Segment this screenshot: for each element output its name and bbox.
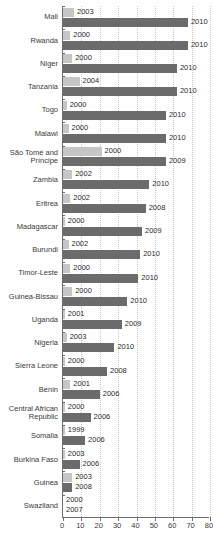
bar-track-light: 2003 xyxy=(63,333,213,342)
bar-track-dark: 2006 xyxy=(63,413,213,422)
category-label: Timor-Leste xyxy=(0,269,58,278)
bar-earlier-year[interactable] xyxy=(63,147,102,156)
bar-value-label: 2010 xyxy=(140,249,160,259)
x-tick-label-60: 60 xyxy=(168,521,176,530)
bar-later-year[interactable] xyxy=(63,134,166,143)
chart-row: Central African Republic20002006 xyxy=(0,402,213,425)
chart-row: Burkina Faso20032006 xyxy=(0,448,213,471)
bar-track-dark: 2010 xyxy=(63,274,213,283)
bar-later-year[interactable] xyxy=(63,250,140,259)
chart-row: Timor-Leste20002010 xyxy=(0,262,213,285)
bar-later-year[interactable] xyxy=(63,41,188,50)
bar-track-dark: 2008 xyxy=(63,367,213,376)
bar-earlier-year[interactable] xyxy=(63,287,72,296)
bar-value-label: 2000 xyxy=(65,216,85,226)
category-label: Central African Republic xyxy=(0,405,58,422)
bar-later-year[interactable] xyxy=(63,460,80,469)
bar-later-year[interactable] xyxy=(63,18,188,27)
bar-value-label: 2002 xyxy=(69,239,89,249)
bar-value-label: 2007 xyxy=(63,505,83,515)
bar-earlier-year[interactable] xyxy=(63,194,70,203)
bar-value-label: 2004 xyxy=(80,76,100,86)
chart-row: Madagascar20002009 xyxy=(0,215,213,238)
chart-row: São Tomé and Príncipe20002009 xyxy=(0,146,213,169)
bar-track-light: 2000 xyxy=(63,31,213,40)
bar-later-year[interactable] xyxy=(63,367,107,376)
bar-value-label: 2001 xyxy=(65,309,85,319)
category-label: Rwanda xyxy=(0,37,58,46)
bar-value-label: 2010 xyxy=(188,17,208,27)
category-label: Swaziland xyxy=(0,502,58,511)
bar-track-dark: 2009 xyxy=(63,227,213,236)
chart-row: Nigeria20032010 xyxy=(0,332,213,355)
bar-track-light: 2001 xyxy=(63,310,213,319)
chart-row: Burundi20022010 xyxy=(0,239,213,262)
bar-value-label: 2000 xyxy=(102,146,122,156)
chart-row: Niger20002010 xyxy=(0,53,213,76)
bar-value-label: 2010 xyxy=(188,40,208,50)
bar-value-label: 2010 xyxy=(177,63,197,73)
bar-value-label: 2010 xyxy=(114,342,134,352)
bar-later-year[interactable] xyxy=(63,64,177,73)
bar-later-year[interactable] xyxy=(63,111,166,120)
bar-track-dark: 2009 xyxy=(63,320,213,329)
bar-track-light: 2000 xyxy=(63,287,213,296)
bar-value-label: 2003 xyxy=(67,332,87,342)
bar-later-year[interactable] xyxy=(63,180,149,189)
bar-value-label: 2006 xyxy=(91,412,111,422)
bar-earlier-year[interactable] xyxy=(63,54,72,63)
bar-earlier-year[interactable] xyxy=(63,380,70,389)
bar-track-light: 2001 xyxy=(63,380,213,389)
category-label: Zambia xyxy=(0,176,58,185)
bar-value-label: 2010 xyxy=(166,110,186,120)
x-tick-label-80: 80 xyxy=(205,521,213,530)
bar-track-light: 1999 xyxy=(63,426,213,435)
bar-value-label: 2010 xyxy=(127,296,147,306)
bar-track-dark: 2006 xyxy=(63,460,213,469)
bar-later-year[interactable] xyxy=(63,483,72,492)
bar-track-light: 2002 xyxy=(63,194,213,203)
bar-earlier-year[interactable] xyxy=(63,473,72,482)
x-tick-label-40: 40 xyxy=(131,521,139,530)
bar-track-dark: 2006 xyxy=(63,390,213,399)
category-label: Benin xyxy=(0,386,58,395)
bar-value-label: 2006 xyxy=(85,435,105,445)
chart-row: Somalia19992006 xyxy=(0,425,213,448)
bar-earlier-year[interactable] xyxy=(63,264,70,273)
bar-track-light: 2000 xyxy=(63,101,213,110)
bar-later-year[interactable] xyxy=(63,274,138,283)
bar-earlier-year[interactable] xyxy=(63,170,72,179)
x-tick-label-10: 10 xyxy=(76,521,84,530)
bar-later-year[interactable] xyxy=(63,157,166,166)
bar-earlier-year[interactable] xyxy=(63,8,74,17)
bar-value-label: 2000 xyxy=(70,263,90,273)
x-tick-label-50: 50 xyxy=(150,521,158,530)
bar-later-year[interactable] xyxy=(63,413,91,422)
bar-later-year[interactable] xyxy=(63,87,177,96)
bar-track-light: 2000 xyxy=(63,496,213,505)
chart-row: Eritrea20022008 xyxy=(0,192,213,215)
chart-row: Mali20032010 xyxy=(0,6,213,29)
bar-earlier-year[interactable] xyxy=(63,77,80,86)
chart-row: Guinea-Bissau20002010 xyxy=(0,285,213,308)
category-label: Nigeria xyxy=(0,339,58,348)
category-label: Sierra Leone xyxy=(0,362,58,371)
category-label: Mali xyxy=(0,13,58,22)
bar-later-year[interactable] xyxy=(63,320,122,329)
bar-later-year[interactable] xyxy=(63,227,142,236)
bar-track-light: 2000 xyxy=(63,217,213,226)
bar-later-year[interactable] xyxy=(63,343,114,352)
bar-earlier-year[interactable] xyxy=(63,31,70,40)
bar-value-label: 2001 xyxy=(70,379,90,389)
bar-later-year[interactable] xyxy=(63,390,100,399)
bar-track-dark: 2010 xyxy=(63,343,213,352)
chart-row: Sierra Leone20002008 xyxy=(0,355,213,378)
bar-track-light: 2000 xyxy=(63,147,213,156)
bar-value-label: 2002 xyxy=(72,169,92,179)
chart-row: Tanzania20042010 xyxy=(0,76,213,99)
bar-later-year[interactable] xyxy=(63,436,85,445)
bar-later-year[interactable] xyxy=(63,297,127,306)
bar-track-dark: 2010 xyxy=(63,134,213,143)
bar-later-year[interactable] xyxy=(63,204,146,213)
bar-value-label: 2010 xyxy=(166,133,186,143)
